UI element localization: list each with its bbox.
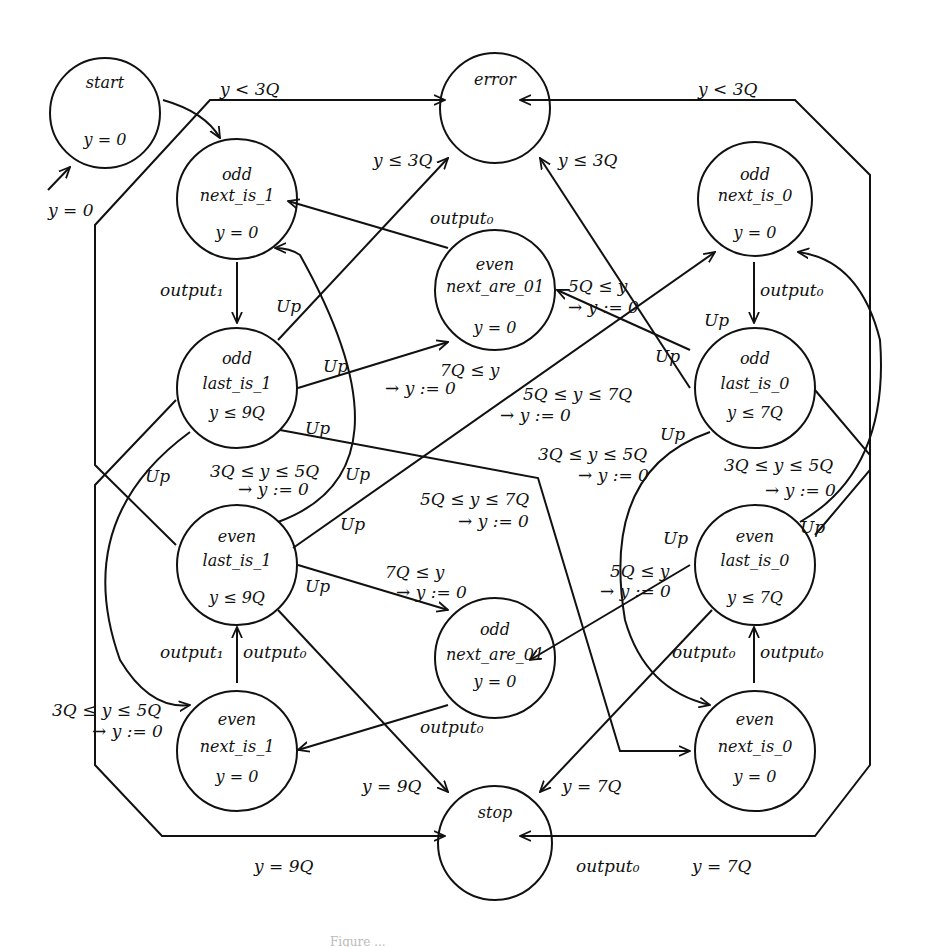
edge-label: Up: [323, 356, 348, 376]
edge-reset: → y := 0: [578, 465, 649, 485]
edge-guard: 5Q ≤ y ≤ 7Q: [523, 384, 632, 404]
edge-label: y ≤ 3Q: [557, 150, 617, 170]
edge-label: Up: [340, 514, 365, 534]
edge-label: Up: [800, 517, 825, 537]
edge-label: output₀: [420, 717, 484, 737]
node-odd-next-are-01: odd next_are_01 y = 0: [435, 598, 555, 718]
node-invariant: y = 0: [215, 223, 259, 242]
node-error: error: [440, 53, 550, 163]
edge-guard: 5Q ≤ y: [610, 561, 670, 581]
edge-reset: → y := 0: [600, 581, 671, 601]
edge-reset: → y := 0: [568, 297, 639, 317]
edge-label: output₀: [760, 280, 824, 300]
node-invariant: y ≤ 9Q: [208, 588, 265, 607]
state-machine-diagram: start y = 0 error odd next_is_1 y = 0 ev…: [0, 0, 937, 947]
node-invariant: y ≤ 7Q: [726, 403, 783, 422]
node-even-next-is-1: even next_is_1 y = 0: [177, 691, 297, 811]
edge-label: output₀: [576, 856, 640, 876]
node-label: odd: [740, 349, 770, 368]
edge-guard: 3Q ≤ y ≤ 5Q: [210, 461, 319, 481]
node-sublabel: next_is_0: [718, 737, 793, 756]
edge-guard: 7Q ≤ y: [385, 562, 445, 582]
edge-guard: 3Q ≤ y ≤ 5Q: [52, 700, 161, 720]
edge-init: [48, 167, 70, 190]
edge-reset: → y := 0: [458, 511, 529, 531]
edge-label: Up: [305, 576, 330, 596]
node-invariant: y ≤ 9Q: [208, 403, 265, 422]
edge-label: Up: [276, 296, 301, 316]
node-label: odd: [740, 165, 770, 184]
node-invariant: y = 0: [215, 767, 259, 786]
node-odd-last-is-1: odd last_is_1 y ≤ 9Q: [177, 328, 297, 448]
edge-label: y < 3Q: [219, 79, 279, 99]
edge-label: Up: [660, 424, 685, 444]
node-sublabel: last_is_1: [203, 551, 272, 570]
edge-guard: 5Q ≤ y: [568, 276, 628, 296]
figure-caption: Figure ...: [330, 935, 610, 947]
edge-label: Up: [145, 466, 170, 486]
edge-label: Up: [345, 464, 370, 484]
node-label: odd: [480, 620, 510, 639]
edge-even-next-are-01-to-odd-next-is-1: [288, 201, 448, 248]
edge-even-last-is-1-to-stop: [278, 610, 448, 792]
node-invariant: y = 0: [733, 223, 777, 242]
node-invariant: y = 0: [733, 767, 777, 786]
edge-guard: 3Q ≤ y ≤ 5Q: [724, 455, 833, 475]
edge-reset: → y := 0: [765, 480, 836, 500]
node-invariant: y ≤ 7Q: [726, 588, 783, 607]
edge-guard: 3Q ≤ y ≤ 5Q: [538, 444, 647, 464]
node-even-last-is-0: even last_is_0 y ≤ 7Q: [695, 505, 815, 625]
node-odd-last-is-0: odd last_is_0 y ≤ 7Q: [695, 328, 815, 448]
edge-label: output₀: [760, 642, 824, 662]
edge-label: y = 9Q: [253, 856, 313, 876]
edge-label: y = 7Q: [691, 856, 751, 876]
node-label: odd: [222, 165, 252, 184]
edge-reset: → y := 0: [92, 721, 163, 741]
node-stop: stop: [438, 786, 552, 900]
edge-label: y = 0: [47, 200, 94, 220]
node-even-next-are-01: even next_are_01 y = 0: [435, 230, 555, 350]
edge-label: Up: [663, 528, 688, 548]
node-invariant: y = 0: [473, 318, 517, 337]
node-sublabel: next_are_01: [446, 277, 544, 296]
edge-label: y = 9Q: [361, 776, 421, 796]
edge-label: output₁: [160, 280, 224, 300]
node-sublabel: next_is_0: [718, 186, 793, 205]
node-odd-next-is-0: odd next_is_0 y = 0: [698, 142, 812, 256]
edge-label: y = 7Q: [561, 776, 621, 796]
node-start: start y = 0: [50, 58, 160, 168]
edge-odd-last-is-1-to-error: [278, 158, 448, 340]
node-label: start: [86, 73, 125, 92]
edge-label: Up: [655, 346, 680, 366]
edge-label: y < 3Q: [697, 79, 757, 99]
node-invariant: y = 0: [473, 672, 517, 691]
node-label: stop: [478, 803, 513, 822]
node-label: odd: [222, 349, 252, 368]
edge-reset: → y := 0: [238, 479, 309, 499]
node-label: even: [736, 710, 774, 729]
edge-label: output₁: [160, 642, 224, 662]
edge-label: output₀: [672, 642, 736, 662]
node-sublabel: last_is_1: [203, 374, 272, 393]
edge-label: Up: [704, 310, 729, 330]
edge-label: y ≤ 3Q: [372, 150, 432, 170]
node-even-next-is-0: even next_is_0 y = 0: [695, 691, 815, 811]
node-sublabel: last_is_0: [721, 551, 790, 570]
node-invariant: y = 0: [83, 130, 127, 149]
node-label: even: [736, 527, 774, 546]
node-sublabel: next_are_01: [446, 645, 544, 664]
edge-label: output₀: [243, 642, 307, 662]
node-label: even: [218, 527, 256, 546]
edge-even-last-is-0-to-stop: [540, 610, 712, 792]
node-sublabel: next_is_1: [200, 186, 275, 205]
node-label: even: [218, 710, 256, 729]
edge-reset: → y := 0: [500, 405, 571, 425]
node-even-last-is-1: even last_is_1 y ≤ 9Q: [177, 505, 297, 625]
node-sublabel: last_is_0: [721, 374, 790, 393]
node-sublabel: next_is_1: [200, 737, 275, 756]
edge-guard: 5Q ≤ y ≤ 7Q: [420, 489, 529, 509]
edge-reset: → y := 0: [385, 378, 456, 398]
edge-reset: → y := 0: [396, 582, 467, 602]
edge-guard: 7Q ≤ y: [440, 360, 500, 380]
edge-label: Up: [305, 418, 330, 438]
